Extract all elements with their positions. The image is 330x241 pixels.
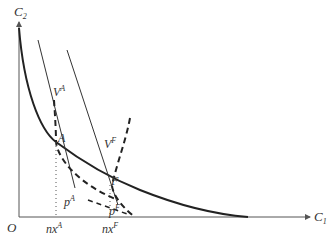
price-line-A	[38, 40, 75, 188]
frontier-curve	[19, 28, 248, 217]
p-F-label: pF	[108, 203, 120, 218]
origin-label: O	[7, 220, 17, 235]
x-axis-label: C1	[314, 209, 327, 226]
diagram: C2 C1 O A F VA VF pA pF nxA nxF	[0, 0, 330, 241]
p-A-label: pA	[63, 194, 75, 209]
nx-A-label: nxA	[46, 221, 62, 236]
V-F-label: VF	[104, 136, 116, 151]
V-A-label: VA	[53, 84, 65, 99]
point-A-label: A	[57, 131, 66, 145]
y-axis-label: C2	[14, 4, 27, 21]
point-F-label: F	[110, 174, 119, 188]
nx-F-label: nxF	[102, 221, 118, 236]
